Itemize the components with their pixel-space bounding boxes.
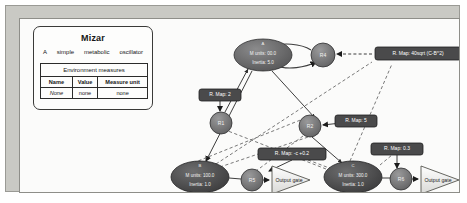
node-r1-shape[interactable] — [210, 112, 232, 134]
output-gate-b-label: Output gate — [275, 177, 302, 183]
edge-a-to-c — [272, 71, 315, 118]
node-r2[interactable]: R2 — [299, 115, 321, 137]
map-label-r1[interactable]: R. Map: 2 — [199, 89, 241, 101]
map-label-r2[interactable]: R. Map: 5 — [335, 115, 377, 127]
edge-b-to-r5 — [229, 178, 241, 179]
node-r6[interactable]: R6 — [390, 168, 412, 190]
node-r1[interactable]: R1 — [210, 112, 232, 134]
map-label-r1-text: R. Map: 2 — [209, 91, 231, 97]
map-label-r6-text: R. Map: 0.3 — [384, 145, 410, 151]
node-r5-shape[interactable] — [241, 169, 263, 191]
dashed-r6-map — [380, 155, 392, 165]
node-b-shape[interactable] — [171, 161, 229, 193]
map-label-r4[interactable]: R. Map: 40sqrt (C-B^2) — [375, 47, 460, 60]
node-c[interactable]: C M units: 300.0 Inertia: 1.0 — [324, 161, 382, 193]
diagram-canvas[interactable]: Mizar A simple metabolic oscillator Envi… — [19, 18, 460, 193]
map-label-r2-text: R. Map: 5 — [345, 117, 367, 123]
node-r4-shape[interactable] — [311, 43, 335, 67]
map-label-r5[interactable]: R. Map: -c +0.2 — [258, 148, 326, 160]
node-r4[interactable]: R4 — [311, 43, 335, 67]
output-gate-c-label: Output gate — [424, 177, 451, 183]
node-a-shape[interactable] — [234, 39, 292, 71]
node-a[interactable]: A M units: 00.0 Inertia: 5.0 — [234, 39, 292, 71]
graph-svg: Output gate Output gate A M units: 00.0 … — [20, 19, 460, 193]
window-frame: Mizar A simple metabolic oscillator Envi… — [5, 5, 460, 192]
node-r6-shape[interactable] — [390, 168, 412, 190]
map-label-r4-text: R. Map: 40sqrt (C-B^2) — [392, 50, 444, 56]
screenshot-root: Mizar A simple metabolic oscillator Envi… — [0, 0, 467, 203]
node-r5[interactable]: R5 — [241, 169, 263, 191]
dashed-c-to-map-r5 — [308, 160, 332, 169]
map-label-r5-text: R. Map: -c +0.2 — [275, 150, 310, 156]
node-c-shape[interactable] — [324, 161, 382, 193]
node-b[interactable]: B M units: 100.0 Inertia: 1.0 — [171, 161, 229, 193]
node-r2-shape[interactable] — [299, 115, 321, 137]
map-label-r6[interactable]: R. Map: 0.3 — [371, 143, 423, 155]
